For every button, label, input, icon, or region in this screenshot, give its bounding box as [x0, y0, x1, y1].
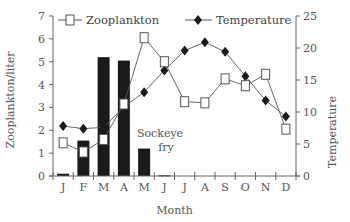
x-tick-label: M	[138, 181, 149, 194]
zooplankton-square-marker	[59, 138, 67, 148]
zooplankton-square-marker	[221, 74, 229, 84]
bar-sockeye-fry	[118, 61, 130, 176]
y-tick-label-left: 2	[38, 124, 45, 137]
bar-sockeye-fry	[98, 57, 110, 176]
annotation-fry: fry	[158, 141, 174, 154]
y-tick-label-right: 10	[303, 106, 317, 119]
y-tick-label-left: 3	[38, 101, 45, 114]
x-tick-label: J	[161, 181, 166, 194]
y-tick-label-right: 20	[303, 42, 317, 55]
x-tick-label: D	[281, 181, 290, 194]
chart: 012345670510152025JFMAMJJASONDMonthZoopl…	[0, 0, 350, 222]
y-tick-label-right: 0	[303, 170, 310, 183]
x-tick-label: N	[261, 181, 271, 194]
zooplankton-square-marker	[241, 81, 249, 91]
zooplankton-square-marker	[120, 99, 128, 109]
legend-zooplankton-label: Zooplankton	[86, 13, 160, 27]
x-tick-label: O	[241, 181, 250, 194]
zooplankton-square-marker	[181, 97, 189, 107]
x-tick-label: J	[60, 181, 65, 194]
y-tick-label-left: 5	[38, 56, 45, 69]
annotation-sockeye: Sockeye	[137, 127, 183, 140]
x-axis-title: Month	[156, 204, 192, 217]
y-axis-left-title: Zooplankton/liter	[4, 51, 17, 149]
temperature-diamond-marker	[79, 124, 87, 134]
y-axis-right-title: Temperature	[326, 96, 339, 168]
temperature-diamond-marker	[201, 37, 209, 47]
x-tick-label: M	[98, 181, 109, 194]
zooplankton-square-marker	[79, 147, 87, 157]
zooplankton-square-marker	[201, 98, 209, 108]
bar-sockeye-fry	[138, 149, 150, 176]
x-tick-label: F	[80, 181, 88, 194]
temperature-line	[63, 42, 286, 128]
zooplankton-square-marker	[262, 69, 270, 79]
x-tick-label: J	[181, 181, 186, 194]
x-tick-label: A	[200, 181, 210, 194]
legend-diamond-icon	[194, 15, 202, 25]
legend-square-icon	[66, 15, 74, 25]
y-tick-label-left: 4	[38, 79, 45, 92]
x-tick-label: S	[221, 181, 229, 194]
x-tick-label: A	[119, 181, 129, 194]
temperature-diamond-marker	[181, 46, 189, 56]
y-tick-label-left: 7	[38, 10, 45, 23]
legend-temperature-label: Temperature	[216, 13, 292, 27]
zooplankton-square-marker	[140, 33, 148, 43]
zooplankton-square-marker	[100, 134, 108, 144]
y-tick-label-left: 0	[38, 170, 45, 183]
temperature-diamond-marker	[59, 121, 67, 131]
y-tick-label-left: 1	[38, 147, 45, 160]
y-tick-label-left: 6	[38, 33, 45, 46]
temperature-diamond-marker	[282, 111, 290, 121]
y-tick-label-right: 25	[303, 10, 317, 23]
y-tick-label-right: 15	[303, 74, 317, 87]
y-tick-label-right: 5	[303, 138, 310, 151]
zooplankton-square-marker	[282, 124, 290, 134]
bar-sockeye-fry	[77, 141, 89, 176]
zooplankton-square-marker	[160, 57, 168, 67]
